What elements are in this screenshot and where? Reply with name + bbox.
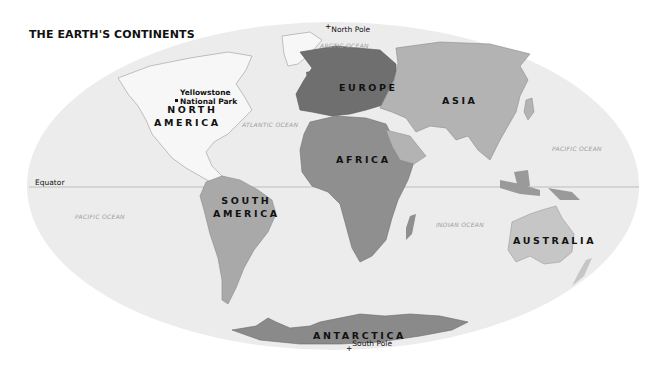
- uk-shape: [306, 70, 318, 86]
- label-south-america-line2: AMERICA: [213, 207, 280, 220]
- south-pole-label: South Pole: [352, 339, 392, 348]
- label-atlantic-ocean: ATLANTIC OCEAN: [242, 121, 298, 128]
- label-indian-ocean: INDIAN OCEAN: [436, 221, 484, 228]
- yellowstone-label-line2: National Park: [180, 97, 237, 106]
- yellowstone-label: Yellowstone National Park: [180, 88, 237, 106]
- label-north-america: NORTH AMERICA: [164, 103, 221, 129]
- label-australia: AUSTRALIA: [513, 234, 596, 247]
- world-map: [0, 0, 667, 365]
- label-south-america-line1: SOUTH: [213, 194, 280, 207]
- plus-icon: +: [346, 344, 352, 353]
- label-europe: EUROPE: [339, 81, 398, 94]
- label-arctic-ocean: ARCTIC OCEAN: [320, 42, 369, 49]
- yellowstone-label-line1: Yellowstone: [180, 88, 237, 97]
- label-africa: AFRICA: [336, 153, 391, 166]
- plus-icon: +: [325, 22, 331, 31]
- equator-label: Equator: [35, 178, 64, 187]
- south-pole-marker: +South Pole: [346, 339, 392, 348]
- label-north-america-line2: AMERICA: [154, 116, 221, 129]
- north-pole-marker: +North Pole: [325, 25, 370, 34]
- label-south-america: SOUTH AMERICA: [213, 194, 280, 220]
- north-pole-label: North Pole: [331, 25, 370, 34]
- label-pacific-ocean-east: PACIFIC OCEAN: [552, 145, 602, 152]
- yellowstone-marker: [175, 99, 178, 102]
- label-pacific-ocean-west: PACIFIC OCEAN: [75, 213, 125, 220]
- label-asia: ASIA: [442, 94, 477, 107]
